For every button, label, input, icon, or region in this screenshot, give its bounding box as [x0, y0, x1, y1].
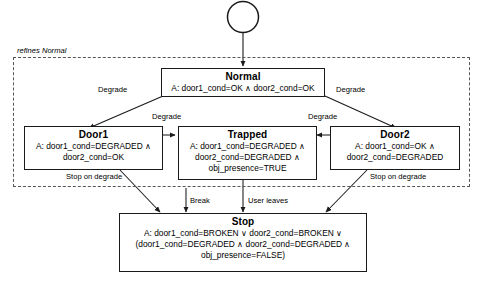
edge-label-normal-to-door1: Degrade	[98, 85, 127, 94]
state-door1[interactable]: Door1 A: door1_cond=DEGRADED ∧ door2_con…	[24, 126, 163, 170]
state-stop[interactable]: Stop A: door1_cond=BROKEN ∨ door2_cond=B…	[119, 213, 367, 272]
state-trapped-body: A: door1_cond=DEGRADED ∧ door2_cond=DEGR…	[179, 141, 316, 174]
state-normal-title: Normal	[162, 71, 324, 83]
edge-label-door1-to-stop: Stop on degrade	[66, 172, 122, 181]
state-stop-body: A: door1_cond=BROKEN ∨ door2_cond=BROKEN…	[120, 228, 366, 261]
state-door2[interactable]: Door2 A: door1_cond=OK ∧ door2_cond=DEGR…	[330, 126, 460, 170]
refinement-region-label: refines Normal	[17, 46, 66, 55]
state-trapped[interactable]: Trapped A: door1_cond=DEGRADED ∧ door2_c…	[178, 126, 317, 180]
edge-label-break-to-stop: Break	[190, 196, 210, 205]
state-normal-body: A: door1_cond=OK ∧ door2_cond=OK	[162, 83, 324, 94]
statechart-diagram: refines Normal Normal A: door1_cond=O	[0, 0, 484, 288]
state-door2-title: Door2	[331, 129, 459, 141]
state-door1-title: Door1	[25, 129, 162, 141]
edge-label-trapped-to-stop: User leaves	[248, 196, 288, 205]
initial-pseudostate-circle	[228, 2, 259, 33]
edge-label-normal-to-door2: Degrade	[336, 85, 365, 94]
edge-label-door2-to-trapped: Degrade	[308, 112, 337, 121]
state-door2-body: A: door1_cond=OK ∧ door2_cond=DEGRADED	[331, 141, 459, 163]
edge-label-door1-to-trapped: Degrade	[152, 112, 181, 121]
state-normal[interactable]: Normal A: door1_cond=OK ∧ door2_cond=OK	[161, 68, 325, 97]
state-door1-body: A: door1_cond=DEGRADED ∧ door2_cond=OK	[25, 141, 162, 163]
edge-label-door2-to-stop: Stop on degrade	[370, 172, 426, 181]
state-trapped-title: Trapped	[179, 129, 316, 141]
state-stop-title: Stop	[120, 216, 366, 228]
